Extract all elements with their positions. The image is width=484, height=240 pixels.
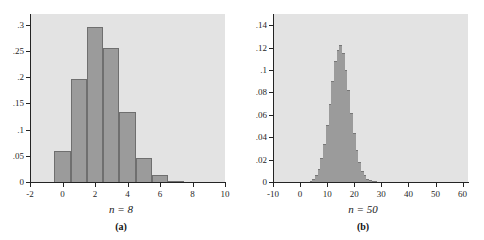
x-tick-label: -10 [267, 190, 279, 199]
y-tick [269, 115, 273, 116]
x-tick [95, 183, 96, 187]
x-tick [225, 183, 226, 187]
panel-a-n-label: n = 8 [0, 204, 242, 215]
x-tick-label: 10 [221, 190, 230, 199]
panel-b-caption: (b) [242, 222, 484, 232]
x-tick [436, 183, 437, 187]
y-tick-label: .14 [241, 21, 267, 30]
x-tick-label: 0 [298, 190, 303, 199]
x-tick [408, 183, 409, 187]
x-tick-label: 0 [60, 190, 65, 199]
y-tick-label: .06 [241, 110, 267, 119]
x-tick-label: 40 [404, 190, 413, 199]
y-tick [269, 70, 273, 71]
x-axis-b [273, 182, 469, 183]
x-tick [30, 183, 31, 187]
histogram-bar [103, 48, 119, 182]
panel-a: 0.05.1.15.2.25.3-20246810 n = 8 (a) [0, 0, 242, 240]
x-tick-label: 60 [458, 190, 467, 199]
histogram-bar [71, 79, 87, 182]
x-tick-label: 8 [190, 190, 195, 199]
x-tick [463, 183, 464, 187]
y-tick [269, 160, 273, 161]
figure-container: 0.05.1.15.2.25.3-20246810 n = 8 (a) 0.02… [0, 0, 484, 240]
y-tick [26, 51, 30, 52]
histogram-bar [152, 175, 168, 182]
histogram-bar [54, 151, 70, 182]
panel-a-caption: (a) [0, 222, 242, 232]
y-tick-label: .25 [0, 46, 24, 55]
histogram-bar [87, 27, 103, 182]
y-tick-label: .2 [0, 73, 24, 82]
x-tick [128, 183, 129, 187]
x-tick [354, 183, 355, 187]
y-tick [269, 25, 273, 26]
x-tick [273, 183, 274, 187]
y-tick [269, 92, 273, 93]
histogram-bars-a [30, 14, 225, 182]
y-tick-label: .1 [0, 125, 24, 134]
x-tick-label: 30 [377, 190, 386, 199]
y-tick-label: .05 [0, 151, 24, 160]
y-tick-label: .08 [241, 88, 267, 97]
y-tick-label: .1 [241, 66, 267, 75]
x-tick [63, 183, 64, 187]
histogram-bar [136, 158, 152, 182]
x-tick-label: 50 [431, 190, 440, 199]
x-tick-label: 6 [158, 190, 163, 199]
x-tick-label: 20 [350, 190, 359, 199]
y-tick [26, 103, 30, 104]
y-tick-label: .12 [241, 43, 267, 52]
panel-b-n-label: n = 50 [242, 204, 484, 215]
y-axis-b [273, 14, 274, 183]
x-tick [300, 183, 301, 187]
y-tick-label: .15 [0, 99, 24, 108]
y-tick [26, 156, 30, 157]
y-tick [26, 77, 30, 78]
panel-b: 0.02.04.06.08.1.12.14-100102030405060 n … [242, 0, 484, 240]
y-tick [269, 48, 273, 49]
y-tick-label: .04 [241, 133, 267, 142]
y-tick [26, 130, 30, 131]
y-tick-label: .02 [241, 155, 267, 164]
x-tick [160, 183, 161, 187]
x-tick-label: -2 [26, 190, 34, 199]
y-tick [269, 137, 273, 138]
x-tick-label: 4 [125, 190, 130, 199]
x-tick [381, 183, 382, 187]
histogram-bars-b [273, 14, 468, 182]
y-axis-a [30, 14, 31, 183]
y-tick-label: 0 [0, 178, 24, 187]
y-tick-label: .3 [0, 20, 24, 29]
histogram-bar [119, 112, 135, 182]
x-tick [193, 183, 194, 187]
x-tick-label: 2 [93, 190, 98, 199]
x-tick [327, 183, 328, 187]
x-tick-label: 10 [323, 190, 332, 199]
y-tick [26, 25, 30, 26]
y-tick-label: 0 [241, 178, 267, 187]
